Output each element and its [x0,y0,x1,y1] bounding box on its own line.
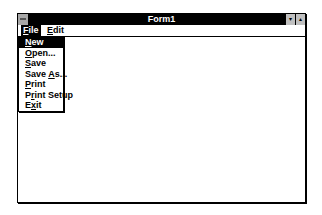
menu-item-open[interactable]: Open... [19,48,63,59]
menu-item-save-as[interactable]: Save As... [19,69,63,80]
form1-window: Form1 ▾ ▴ File Edit New Open... Save Sav… [17,13,306,203]
menu-item-print-setup[interactable]: Print Setup [19,90,63,101]
menu-edit-rest: dit [53,25,64,35]
menu-item-save[interactable]: Save [19,58,63,69]
title-bar[interactable]: Form1 ▾ ▴ [18,14,305,25]
file-menu-dropdown: New Open... Save Save As... Print Print … [18,36,64,112]
menu-edit[interactable]: Edit [45,25,66,36]
maximize-button[interactable]: ▴ [295,14,305,25]
menu-file-rest: ile [29,25,39,35]
window-title: Form1 [18,14,305,25]
menu-item-new[interactable]: New [19,37,63,48]
minimize-button[interactable]: ▾ [285,14,295,25]
menu-file[interactable]: File [21,25,41,36]
menu-item-exit[interactable]: Exit [19,100,63,111]
menu-item-print[interactable]: Print [19,79,63,90]
